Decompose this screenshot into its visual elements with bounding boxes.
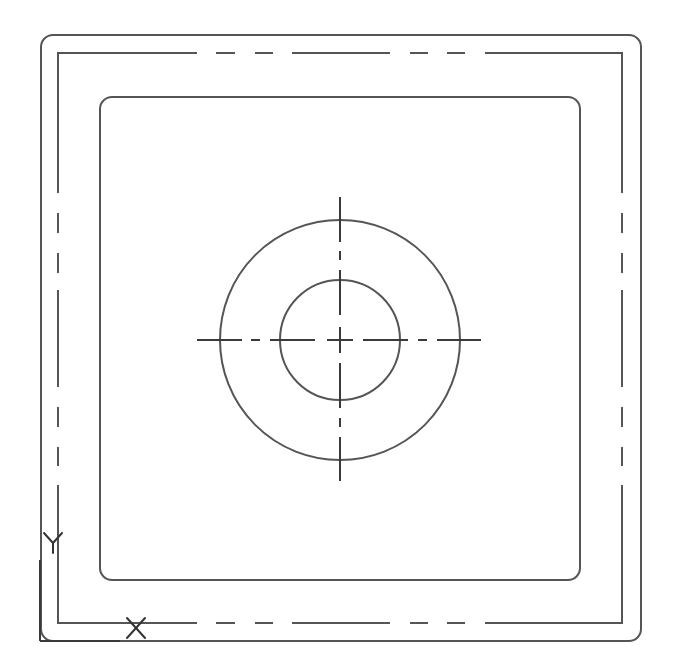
ucs-x-label-glyph (127, 618, 145, 638)
ucs-y-label-glyph (44, 533, 62, 553)
ucs-icon (40, 533, 145, 641)
cad-drawing-canvas[interactable]: X Y (0, 0, 678, 671)
